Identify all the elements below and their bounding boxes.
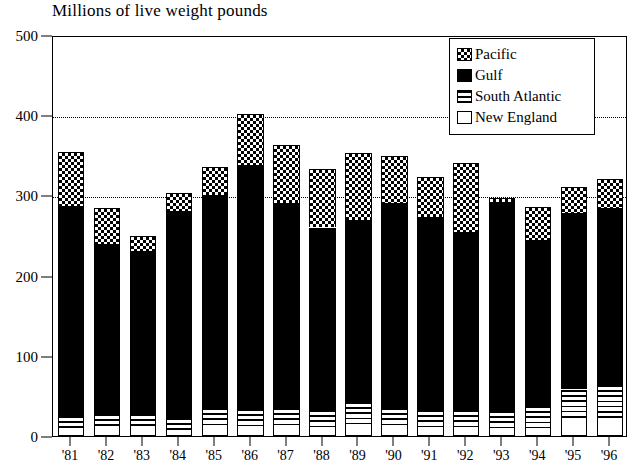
x-tick-label: '95 bbox=[565, 448, 582, 464]
chart-legend: PacificGulfSouth AtlanticNew England bbox=[449, 38, 595, 135]
bar-segment-new-england[interactable] bbox=[381, 428, 407, 436]
bar-90[interactable] bbox=[381, 156, 407, 436]
bar-84[interactable] bbox=[166, 193, 192, 436]
legend-item-south-atlantic[interactable]: South Atlantic bbox=[457, 86, 588, 107]
bar-segment-new-england[interactable] bbox=[417, 430, 443, 436]
bar-segment-new-england[interactable] bbox=[58, 428, 84, 436]
x-tick-label: '81 bbox=[62, 448, 79, 464]
bar-segment-gulf[interactable] bbox=[525, 240, 551, 406]
bar-segment-south-atlantic[interactable] bbox=[417, 410, 443, 430]
x-tick-mark bbox=[321, 437, 322, 446]
bar-segment-new-england[interactable] bbox=[453, 430, 479, 436]
bar-segment-south-atlantic[interactable] bbox=[237, 409, 263, 427]
bar-segment-pacific[interactable] bbox=[166, 193, 192, 211]
bar-segment-south-atlantic[interactable] bbox=[130, 414, 156, 430]
bar-86[interactable] bbox=[237, 114, 263, 436]
bar-segment-gulf[interactable] bbox=[273, 203, 299, 408]
bar-87[interactable] bbox=[273, 145, 299, 436]
bar-83[interactable] bbox=[130, 236, 156, 437]
bar-segment-new-england[interactable] bbox=[597, 418, 623, 436]
bar-segment-pacific[interactable] bbox=[525, 207, 551, 240]
bar-segment-south-atlantic[interactable] bbox=[525, 406, 551, 430]
bar-segment-south-atlantic[interactable] bbox=[381, 408, 407, 428]
bar-segment-gulf[interactable] bbox=[597, 208, 623, 384]
bar-segment-new-england[interactable] bbox=[525, 430, 551, 436]
bar-88[interactable] bbox=[309, 169, 335, 436]
bar-segment-south-atlantic[interactable] bbox=[489, 411, 515, 431]
x-tick-label: '83 bbox=[134, 448, 151, 464]
bar-segment-pacific[interactable] bbox=[381, 156, 407, 203]
y-tick-mark bbox=[41, 196, 52, 197]
bar-segment-south-atlantic[interactable] bbox=[202, 408, 228, 428]
bar-segment-gulf[interactable] bbox=[345, 220, 371, 402]
x-tick-mark bbox=[609, 437, 610, 446]
bar-segment-pacific[interactable] bbox=[417, 177, 443, 217]
bar-segment-gulf[interactable] bbox=[94, 244, 120, 415]
bar-segment-new-england[interactable] bbox=[237, 426, 263, 436]
bar-segment-new-england[interactable] bbox=[166, 430, 192, 436]
bar-91[interactable] bbox=[417, 177, 443, 436]
bar-segment-gulf[interactable] bbox=[561, 213, 587, 389]
bar-segment-gulf[interactable] bbox=[237, 165, 263, 409]
legend-label: New England bbox=[475, 110, 557, 125]
bar-segment-gulf[interactable] bbox=[130, 251, 156, 414]
bar-segment-new-england[interactable] bbox=[202, 428, 228, 436]
x-tick-mark bbox=[141, 437, 142, 446]
bar-94[interactable] bbox=[525, 207, 551, 436]
bar-segment-gulf[interactable] bbox=[309, 228, 335, 410]
legend-swatch-gulf-icon bbox=[457, 69, 472, 82]
x-tick-label: '87 bbox=[277, 448, 294, 464]
chart-title: Millions of live weight pounds bbox=[52, 1, 268, 21]
bar-segment-south-atlantic[interactable] bbox=[345, 402, 371, 426]
bar-segment-pacific[interactable] bbox=[453, 163, 479, 231]
bar-segment-pacific[interactable] bbox=[597, 179, 623, 209]
bar-segment-south-atlantic[interactable] bbox=[94, 414, 120, 428]
bar-92[interactable] bbox=[453, 163, 479, 436]
bar-segment-pacific[interactable] bbox=[94, 208, 120, 243]
bar-segment-south-atlantic[interactable] bbox=[273, 408, 299, 428]
bar-segment-gulf[interactable] bbox=[58, 206, 84, 416]
legend-item-pacific[interactable]: Pacific bbox=[457, 44, 588, 65]
bar-segment-pacific[interactable] bbox=[273, 145, 299, 203]
bar-95[interactable] bbox=[561, 187, 587, 436]
bar-segment-pacific[interactable] bbox=[202, 167, 228, 195]
bar-93[interactable] bbox=[489, 198, 515, 436]
bar-segment-new-england[interactable] bbox=[489, 431, 515, 436]
bar-segment-pacific[interactable] bbox=[561, 187, 587, 213]
bar-segment-new-england[interactable] bbox=[309, 430, 335, 436]
legend-label: Pacific bbox=[475, 47, 517, 62]
bar-segment-gulf[interactable] bbox=[417, 217, 443, 409]
bar-segment-gulf[interactable] bbox=[202, 195, 228, 408]
bar-segment-gulf[interactable] bbox=[453, 232, 479, 410]
bar-segment-pacific[interactable] bbox=[309, 169, 335, 228]
bar-81[interactable] bbox=[58, 152, 84, 436]
bar-segment-south-atlantic[interactable] bbox=[58, 416, 84, 428]
bar-segment-gulf[interactable] bbox=[166, 211, 192, 417]
y-tick-label: 100 bbox=[16, 348, 39, 365]
bar-segment-south-atlantic[interactable] bbox=[561, 390, 587, 420]
legend-item-gulf[interactable]: Gulf bbox=[457, 65, 588, 86]
bar-89[interactable] bbox=[345, 153, 371, 436]
bar-segment-pacific[interactable] bbox=[130, 236, 156, 251]
bar-segment-south-atlantic[interactable] bbox=[597, 385, 623, 419]
bar-segment-new-england[interactable] bbox=[273, 428, 299, 436]
bar-96[interactable] bbox=[597, 179, 623, 436]
legend-item-new-england[interactable]: New England bbox=[457, 107, 588, 128]
bar-segment-pacific[interactable] bbox=[58, 152, 84, 206]
bar-segment-new-england[interactable] bbox=[345, 426, 371, 436]
bar-segment-south-atlantic[interactable] bbox=[453, 410, 479, 430]
bar-segment-pacific[interactable] bbox=[237, 114, 263, 165]
bar-segment-gulf[interactable] bbox=[381, 203, 407, 408]
gridline bbox=[53, 197, 626, 198]
bar-segment-new-england[interactable] bbox=[130, 430, 156, 436]
bar-82[interactable] bbox=[94, 208, 120, 436]
bar-segment-south-atlantic[interactable] bbox=[309, 410, 335, 430]
bar-segment-new-england[interactable] bbox=[561, 420, 587, 436]
bar-segment-new-england[interactable] bbox=[94, 428, 120, 436]
bar-segment-south-atlantic[interactable] bbox=[166, 418, 192, 430]
bar-segment-pacific[interactable] bbox=[345, 153, 371, 220]
bar-85[interactable] bbox=[202, 167, 228, 436]
bar-segment-gulf[interactable] bbox=[489, 202, 515, 411]
x-tick-mark bbox=[429, 437, 430, 446]
bar-segment-pacific[interactable] bbox=[489, 198, 515, 202]
